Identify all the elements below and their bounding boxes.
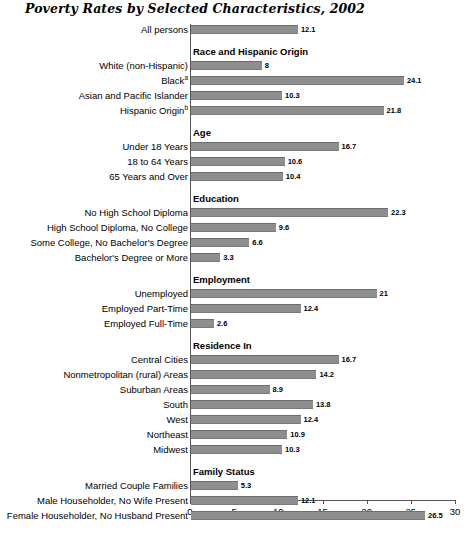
bar-value-label: 14.2 bbox=[319, 369, 334, 380]
section-header: Family Status bbox=[193, 466, 255, 477]
bar-row[interactable]: Some College, No Bachelor's Degree6.6 bbox=[0, 237, 470, 248]
bar-row[interactable]: Male Householder, No Wife Present12.1 bbox=[0, 495, 470, 506]
bar-row-label: South bbox=[163, 399, 188, 410]
bar[interactable] bbox=[191, 25, 298, 34]
bar-row-label: Blacka bbox=[161, 75, 188, 86]
section-header: Residence In bbox=[193, 340, 252, 351]
bar-row-label: Northeast bbox=[147, 429, 188, 440]
bar-row[interactable]: Central Cities16.7 bbox=[0, 354, 470, 365]
bar-row-label: Married Couple Families bbox=[85, 480, 188, 491]
bar-value-label: 8.9 bbox=[273, 384, 283, 395]
bar-row[interactable]: Employed Part-Time12.4 bbox=[0, 303, 470, 314]
bar[interactable] bbox=[191, 511, 425, 520]
bar-row[interactable]: Nonmetropolitan (rural) Areas14.2 bbox=[0, 369, 470, 380]
bar-value-label: 5.3 bbox=[241, 480, 251, 491]
bar[interactable] bbox=[191, 385, 270, 394]
bar-row[interactable]: All persons12.1 bbox=[0, 24, 470, 35]
bar-row-label: Bachelor's Degree or More bbox=[75, 252, 188, 263]
bar-row-label: White (non-Hispanic) bbox=[99, 60, 188, 71]
bar-row[interactable]: Hispanic Originb21.8 bbox=[0, 105, 470, 116]
bar-row-label: Some College, No Bachelor's Degree bbox=[30, 237, 188, 248]
bar[interactable] bbox=[191, 496, 298, 505]
bar-value-label: 21 bbox=[380, 288, 388, 299]
bar-row[interactable]: High School Diploma, No College9.6 bbox=[0, 222, 470, 233]
bar-row-label: Male Householder, No Wife Present bbox=[37, 495, 188, 506]
bar[interactable] bbox=[191, 238, 249, 247]
bar-row[interactable]: Female Householder, No Husband Present26… bbox=[0, 510, 470, 521]
bar-value-label: 10.3 bbox=[285, 444, 300, 455]
bar[interactable] bbox=[191, 319, 214, 328]
bar[interactable] bbox=[191, 400, 313, 409]
bar-value-label: 16.7 bbox=[342, 141, 357, 152]
bar-row[interactable]: 18 to 64 Years10.6 bbox=[0, 156, 470, 167]
bar-value-label: 6.6 bbox=[252, 237, 262, 248]
bar[interactable] bbox=[191, 76, 404, 85]
bar-row[interactable]: Midwest10.3 bbox=[0, 444, 470, 455]
bar-row-label: Unemployed bbox=[135, 288, 188, 299]
bar-row[interactable]: South13.8 bbox=[0, 399, 470, 410]
bar-value-label: 3.3 bbox=[223, 252, 233, 263]
bar-value-label: 12.1 bbox=[301, 24, 316, 35]
bar-row[interactable]: White (non-Hispanic)8 bbox=[0, 60, 470, 71]
bar-row[interactable]: Asian and Pacific Islander10.3 bbox=[0, 90, 470, 101]
bar[interactable] bbox=[191, 106, 384, 115]
bar[interactable] bbox=[191, 370, 316, 379]
bar-row[interactable]: Married Couple Families5.3 bbox=[0, 480, 470, 491]
bar-chart-plot-area: 051015202530 All persons12.1Race and His… bbox=[0, 0, 470, 535]
bar-row-label: Midwest bbox=[153, 444, 188, 455]
bar[interactable] bbox=[191, 157, 285, 166]
bar-row-label: Employed Full-Time bbox=[104, 318, 188, 329]
bar[interactable] bbox=[191, 445, 282, 454]
bar-row[interactable]: Employed Full-Time2.6 bbox=[0, 318, 470, 329]
bar-row-label: High School Diploma, No College bbox=[47, 222, 188, 233]
bar-value-label: 21.8 bbox=[387, 105, 402, 116]
bar[interactable] bbox=[191, 355, 339, 364]
section-header: Education bbox=[193, 193, 239, 204]
bar-row[interactable]: Northeast10.9 bbox=[0, 429, 470, 440]
bar-value-label: 24.1 bbox=[407, 75, 422, 86]
bar[interactable] bbox=[191, 415, 301, 424]
bar-row-label: Central Cities bbox=[131, 354, 188, 365]
bar-row[interactable]: No High School Diploma22.3 bbox=[0, 207, 470, 218]
bar-row-label: West bbox=[167, 414, 188, 425]
bar-row-label: 65 Years and Over bbox=[109, 171, 188, 182]
section-header: Employment bbox=[193, 274, 250, 285]
bar-value-label: 9.6 bbox=[279, 222, 289, 233]
bar[interactable] bbox=[191, 253, 220, 262]
bar[interactable] bbox=[191, 304, 301, 313]
bar[interactable] bbox=[191, 142, 339, 151]
bar-value-label: 10.4 bbox=[286, 171, 301, 182]
bar-value-label: 16.7 bbox=[342, 354, 357, 365]
bar-row[interactable]: Unemployed21 bbox=[0, 288, 470, 299]
bar-value-label: 10.9 bbox=[290, 429, 305, 440]
bar[interactable] bbox=[191, 61, 262, 70]
bar-row-label: Under 18 Years bbox=[123, 141, 189, 152]
bar-value-label: 22.3 bbox=[391, 207, 406, 218]
bar-row-label: Asian and Pacific Islander bbox=[79, 90, 188, 101]
bar-value-label: 8 bbox=[265, 60, 269, 71]
bar[interactable] bbox=[191, 172, 283, 181]
bar-row[interactable]: West12.4 bbox=[0, 414, 470, 425]
bar-row-label: Hispanic Originb bbox=[120, 105, 188, 116]
bar-value-label: 12.1 bbox=[301, 495, 316, 506]
bar-row[interactable]: Suburban Areas8.9 bbox=[0, 384, 470, 395]
bar-value-label: 13.8 bbox=[316, 399, 331, 410]
bar[interactable] bbox=[191, 289, 377, 298]
bar[interactable] bbox=[191, 481, 238, 490]
bar-value-label: 12.4 bbox=[304, 414, 319, 425]
bar-value-label: 12.4 bbox=[304, 303, 319, 314]
bar[interactable] bbox=[191, 430, 287, 439]
bar[interactable] bbox=[191, 208, 388, 217]
bar[interactable] bbox=[191, 91, 282, 100]
bar-row[interactable]: Blacka24.1 bbox=[0, 75, 470, 86]
bar-row-label: Female Householder, No Husband Present bbox=[7, 510, 188, 521]
bar-row[interactable]: 65 Years and Over10.4 bbox=[0, 171, 470, 182]
section-header: Age bbox=[193, 127, 211, 138]
bar-row-label: 18 to 64 Years bbox=[127, 156, 188, 167]
bar[interactable] bbox=[191, 223, 276, 232]
bar-row[interactable]: Bachelor's Degree or More3.3 bbox=[0, 252, 470, 263]
bar-value-label: 2.6 bbox=[217, 318, 227, 329]
footnote-marker: b bbox=[184, 104, 188, 111]
bar-row-label: Employed Part-Time bbox=[102, 303, 188, 314]
bar-row[interactable]: Under 18 Years16.7 bbox=[0, 141, 470, 152]
